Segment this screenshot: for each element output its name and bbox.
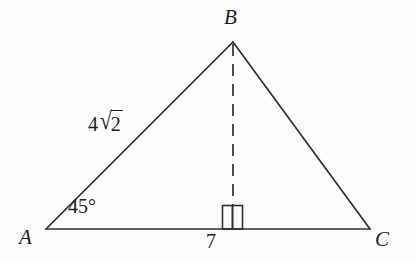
radical-group: √ 2 xyxy=(99,110,123,134)
triangle-figure: A B C 45° 4 √ 2 7 xyxy=(0,0,416,263)
vertex-label-b: B xyxy=(224,7,237,28)
angle-label-a: 45° xyxy=(68,196,96,216)
side-ab-length-label: 4 √ 2 xyxy=(88,110,123,134)
triangle-diagram-canvas xyxy=(0,0,416,263)
side-bc-line xyxy=(233,42,370,229)
vertex-label-c: C xyxy=(375,229,389,250)
right-angle-marker xyxy=(223,206,243,230)
vertex-label-a: A xyxy=(19,227,32,248)
radicand-value: 2 xyxy=(111,110,123,134)
right-angle-box-left xyxy=(223,206,233,230)
radical-coefficient: 4 xyxy=(88,110,98,134)
radical-expression: 4 √ 2 xyxy=(88,110,123,134)
segment-length-label-7: 7 xyxy=(206,231,216,251)
radical-sign-icon: √ xyxy=(100,110,112,132)
right-angle-box-right xyxy=(233,206,243,230)
